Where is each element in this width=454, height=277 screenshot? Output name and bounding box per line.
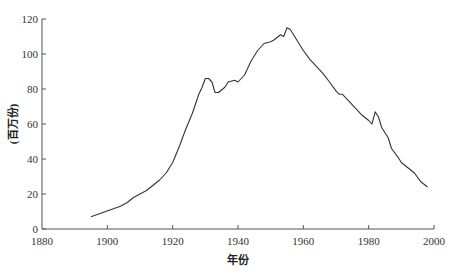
y-axis-label: (百万份) — [6, 104, 20, 145]
axes — [42, 19, 434, 229]
x-tick-label: 1920 — [162, 235, 185, 247]
y-tick-label: 60 — [27, 118, 39, 130]
data-line — [91, 28, 428, 217]
x-axis-label: 年份 — [227, 253, 250, 266]
y-tick-label: 20 — [27, 188, 39, 200]
x-tick-label: 1980 — [358, 235, 381, 247]
y-tick-label: 80 — [27, 83, 39, 95]
x-tick-label: 1880 — [31, 235, 54, 247]
y-tick-label: 0 — [33, 223, 39, 235]
x-tick-label: 2000 — [423, 235, 446, 247]
y-tick-label: 100 — [22, 48, 39, 60]
y-tick-label: 120 — [22, 13, 39, 25]
x-ticks: 1880190019201940196019802000 — [31, 225, 446, 247]
x-tick-label: 1960 — [292, 235, 315, 247]
x-tick-label: 1940 — [227, 235, 250, 247]
x-tick-label: 1900 — [96, 235, 119, 247]
line-chart: 020406080100120 188019001920194019601980… — [0, 0, 454, 277]
y-tick-label: 40 — [27, 153, 39, 165]
